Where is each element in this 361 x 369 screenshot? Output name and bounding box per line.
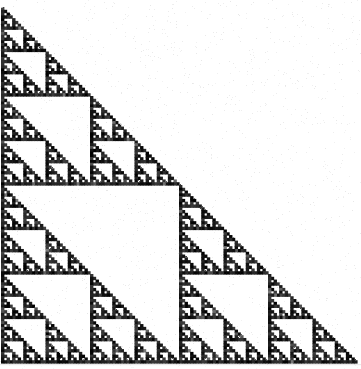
figure-root: Sierpinski Triangle [0, 0, 361, 369]
sierpinski-fractal-canvas [0, 0, 361, 369]
